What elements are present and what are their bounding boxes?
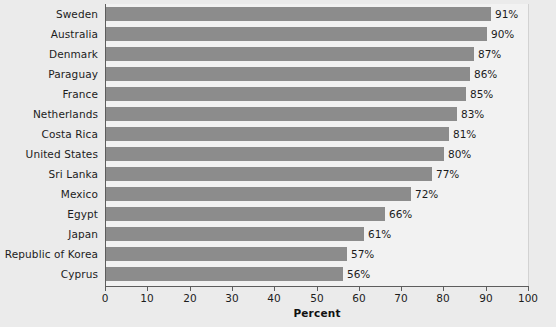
bar-row: United States80% [0, 144, 556, 164]
tick-label: 30 [212, 292, 252, 304]
x-axis-title: Percent [105, 307, 529, 319]
category-label: Sri Lanka [0, 164, 98, 184]
category-label: Australia [0, 24, 98, 44]
category-label: Republic of Korea [0, 244, 98, 264]
bar [106, 127, 449, 141]
tick-label: 80 [423, 292, 463, 304]
bar-value-label: 81% [453, 124, 476, 144]
bar-value-label: 77% [436, 164, 459, 184]
tick-label: 10 [127, 292, 167, 304]
bar-value-label: 57% [351, 244, 374, 264]
bar [106, 267, 343, 281]
bar-value-label: 56% [347, 264, 370, 284]
tick-mark [486, 287, 487, 291]
bar-value-label: 90% [491, 24, 514, 44]
bar-row: Australia90% [0, 24, 556, 44]
tick-mark [401, 287, 402, 291]
category-label: Mexico [0, 184, 98, 204]
bar-row: Cyprus56% [0, 264, 556, 284]
bar-row: Mexico72% [0, 184, 556, 204]
tick-mark [274, 287, 275, 291]
category-label: France [0, 84, 98, 104]
bar [106, 167, 432, 181]
category-label: Egypt [0, 204, 98, 224]
bar [106, 27, 487, 41]
bar-row: Paraguay86% [0, 64, 556, 84]
tick-label: 100 [508, 292, 548, 304]
bar-value-label: 61% [368, 224, 391, 244]
bar-value-label: 72% [415, 184, 438, 204]
bar [106, 47, 474, 61]
bar-row: Japan61% [0, 224, 556, 244]
bar-value-label: 87% [478, 44, 501, 64]
category-label: Paraguay [0, 64, 98, 84]
tick-label: 50 [297, 292, 337, 304]
tick-label: 0 [85, 292, 125, 304]
bar-value-label: 91% [495, 4, 518, 24]
tick-mark [147, 287, 148, 291]
tick-mark [528, 287, 529, 291]
category-label: Costa Rica [0, 124, 98, 144]
category-label: Denmark [0, 44, 98, 64]
tick-label: 70 [381, 292, 421, 304]
bar [106, 107, 457, 121]
bar [106, 67, 470, 81]
category-label: Japan [0, 224, 98, 244]
tick-mark [359, 287, 360, 291]
bar-row: Costa Rica81% [0, 124, 556, 144]
bar-value-label: 85% [470, 84, 493, 104]
bar-value-label: 80% [448, 144, 471, 164]
category-label: Netherlands [0, 104, 98, 124]
bar [106, 207, 385, 221]
tick-label: 60 [339, 292, 379, 304]
tick-mark [190, 287, 191, 291]
bar-value-label: 83% [461, 104, 484, 124]
bar [106, 247, 347, 261]
tick-mark [317, 287, 318, 291]
category-label: United States [0, 144, 98, 164]
bar [106, 147, 444, 161]
bar-value-label: 66% [389, 204, 412, 224]
bar-row: Netherlands83% [0, 104, 556, 124]
bar [106, 87, 466, 101]
tick-mark [443, 287, 444, 291]
bar-row: Republic of Korea57% [0, 244, 556, 264]
tick-mark [105, 287, 106, 291]
bar-row: Egypt66% [0, 204, 556, 224]
category-label: Cyprus [0, 264, 98, 284]
bar-value-label: 86% [474, 64, 497, 84]
bar [106, 187, 411, 201]
bar-row: France85% [0, 84, 556, 104]
tick-mark [232, 287, 233, 291]
tick-label: 40 [254, 292, 294, 304]
bar-chart: Sweden91%Australia90%Denmark87%Paraguay8… [0, 0, 556, 327]
tick-label: 20 [170, 292, 210, 304]
bar [106, 7, 491, 21]
tick-label: 90 [466, 292, 506, 304]
bar-row: Sri Lanka77% [0, 164, 556, 184]
category-label: Sweden [0, 4, 98, 24]
bar [106, 227, 364, 241]
bar-row: Denmark87% [0, 44, 556, 64]
bar-row: Sweden91% [0, 4, 556, 24]
